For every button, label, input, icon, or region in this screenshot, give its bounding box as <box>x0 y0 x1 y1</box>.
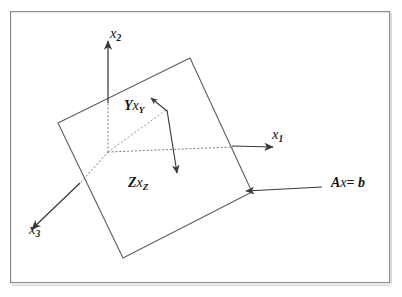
vector-label-Zxz: ZxZ <box>128 176 148 192</box>
axis-x3-dotted <box>81 152 108 182</box>
axis-label-x3-sub: 3 <box>35 228 40 239</box>
vector-label-Yxy: YxY <box>124 99 144 115</box>
figure-border <box>11 12 390 283</box>
axis-label-x2: x2 <box>110 26 121 42</box>
axis-label-x3: x3 <box>29 222 40 238</box>
annotation-operator: = <box>347 175 355 190</box>
vector-label-Z-sub: Z <box>143 182 149 192</box>
diagram-svg <box>0 0 402 297</box>
axis-label-x1: x1 <box>272 127 283 143</box>
vector-label-Y-sub: Y <box>139 105 145 115</box>
vector-label-Y-matrix: Y <box>124 98 133 113</box>
scan-edge-artifact-right <box>390 13 392 284</box>
vector-Y-arrow <box>151 98 167 111</box>
annotation-matrix-a: A <box>331 175 340 190</box>
solution-plane <box>58 58 252 258</box>
vector-label-Z-matrix: Z <box>128 175 137 190</box>
annotation-pointer-arrow <box>246 187 322 191</box>
axis-label-x1-sub: 1 <box>278 133 283 144</box>
vector-Z-arrow <box>167 110 177 173</box>
annotation-label-ax-equals-b: Ax= b <box>331 176 365 190</box>
scan-edge-artifact <box>12 285 391 287</box>
figure-canvas: x2 x1 x3 YxY ZxZ Ax= b <box>0 0 402 297</box>
axis-x1-dotted <box>108 147 233 152</box>
axis-x1-arrow <box>232 146 273 147</box>
axis-label-x2-sub: 2 <box>116 32 121 43</box>
annotation-rhs-b: b <box>358 175 365 190</box>
vector-Y-dotted-guide <box>108 110 166 152</box>
